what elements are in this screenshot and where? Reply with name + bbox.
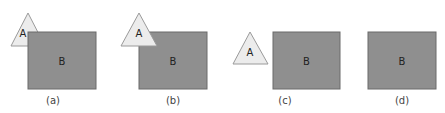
overlap-diagram: AB(a)BA(b)BA(c)B(d) [0,0,445,113]
panel-a: AB(a) [11,13,96,106]
panel-caption: (a) [46,95,60,106]
rectangle-label: B [170,56,177,67]
panel-d: B(d) [368,32,436,106]
panel-b: BA(b) [121,13,207,106]
panel-caption: (b) [166,95,180,106]
triangle-label: A [136,28,143,39]
triangle-a: A [121,13,157,46]
rectangle-b: B [273,32,340,89]
rectangle-b: B [28,32,96,89]
rectangle-b: B [368,32,436,89]
panel-caption: (c) [278,95,291,106]
panel-caption: (d) [395,95,409,106]
triangle-label: A [20,28,27,39]
panel-c: BA(c) [233,32,340,106]
rectangle-label: B [59,56,66,67]
triangle-label: A [247,47,254,58]
rectangle-label: B [303,56,310,67]
rectangle-label: B [399,56,406,67]
triangle-a: A [233,32,268,64]
